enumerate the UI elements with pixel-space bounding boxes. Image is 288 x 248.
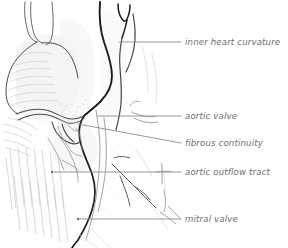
label-mitral-valve: mitral valve [185, 214, 238, 224]
anatomical-figure: inner heart curvature aortic valve fibro… [0, 0, 288, 248]
annotation-aortic-outflow-tract[interactable]: aortic outflow tract [51, 167, 271, 177]
annotation-mitral-valve[interactable]: mitral valve [77, 214, 238, 224]
label-aortic-outflow-tract: aortic outflow tract [185, 167, 271, 177]
label-inner-heart-curvature: inner heart curvature [185, 37, 280, 47]
annotation-inner-heart-curvature[interactable]: inner heart curvature [119, 37, 280, 47]
leader-anchor-dot-aortic-outflow-tract [51, 171, 53, 173]
leader-line-fibrous-continuity [78, 124, 181, 143]
annotation-aortic-valve[interactable]: aortic valve [97, 111, 237, 121]
annotation-layer: inner heart curvature aortic valve fibro… [0, 0, 288, 248]
label-fibrous-continuity: fibrous continuity [185, 138, 264, 148]
leader-anchor-dot-mitral-valve [77, 218, 79, 220]
label-aortic-valve: aortic valve [185, 111, 237, 121]
annotation-fibrous-continuity[interactable]: fibrous continuity [78, 124, 264, 148]
